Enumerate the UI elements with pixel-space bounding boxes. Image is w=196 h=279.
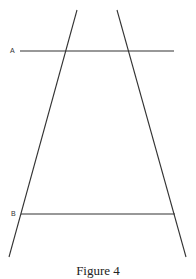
right-slanted-line bbox=[117, 10, 186, 257]
figure-caption: Figure 4 bbox=[76, 263, 120, 278]
left-slanted-line bbox=[9, 10, 77, 257]
figure-4-diagram: A B Figure 4 bbox=[0, 0, 196, 279]
label-b: B bbox=[11, 210, 16, 217]
label-a: A bbox=[10, 47, 15, 54]
